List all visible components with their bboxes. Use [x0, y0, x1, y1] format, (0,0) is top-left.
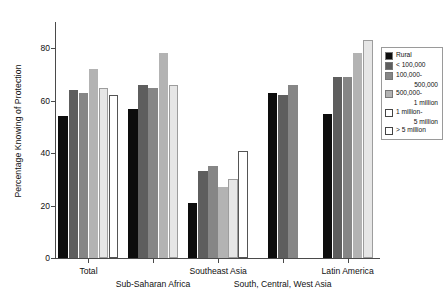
y-tick-label: 60 [0, 97, 57, 105]
legend-swatch [385, 72, 393, 80]
legend-item[interactable]: Rural [385, 51, 440, 60]
legend-label: 500,000- [396, 89, 422, 96]
bar [343, 77, 353, 258]
y-tick-label: 20 [0, 202, 57, 210]
bar [323, 114, 333, 258]
x-tick-mark [283, 258, 284, 263]
bar [99, 88, 109, 258]
legend-item-continuation: 5 million [385, 118, 440, 125]
legend-item[interactable]: < 100,000 [385, 61, 440, 70]
bar-group [186, 22, 251, 258]
bar [58, 116, 68, 258]
bar [128, 109, 138, 258]
bar [208, 166, 218, 258]
x-tick-mark [348, 258, 349, 263]
bar [89, 69, 99, 258]
x-axis-label: Sub-Saharan Africa [116, 279, 191, 289]
x-tick-mark [218, 258, 219, 263]
x-tick-mark [153, 258, 154, 263]
bar [198, 171, 208, 258]
bar [169, 85, 179, 258]
bar [363, 40, 373, 258]
x-tick-mark [88, 258, 89, 263]
legend-item[interactable]: 1 million- [385, 108, 440, 117]
bar-chart: Percentage Knowing of Protection 0204060… [0, 0, 445, 299]
legend-label: > 5 million [396, 126, 426, 133]
legend-swatch [385, 90, 393, 98]
legend-swatch [385, 62, 393, 70]
bar-group [121, 22, 186, 258]
bar [238, 151, 248, 259]
bar-group [315, 22, 380, 258]
legend-label-line2: 1 million [385, 99, 440, 106]
legend-swatch [385, 52, 393, 60]
bar [218, 187, 228, 258]
legend-label: Rural [396, 51, 412, 58]
legend-swatch [385, 127, 393, 135]
legend-item-continuation: 500,000 [385, 81, 440, 88]
bar [228, 179, 238, 258]
bar [288, 85, 298, 258]
bar [109, 95, 119, 258]
y-tick-label: 80 [0, 44, 57, 52]
bar [188, 203, 198, 258]
bar [148, 88, 158, 258]
bar [333, 77, 343, 258]
legend-label-line2: 500,000 [385, 81, 440, 88]
x-axis-label: Total [79, 266, 97, 276]
chart-legend: Rural< 100,000100,000-500,000500,000-1 m… [381, 47, 443, 140]
bar [138, 85, 148, 258]
legend-item[interactable]: 500,000- [385, 89, 440, 98]
x-axis-label: Southeast Asia [190, 266, 247, 276]
bar-group [56, 22, 121, 258]
bar [69, 90, 79, 258]
bar [159, 53, 169, 258]
plot-area [56, 22, 380, 258]
bar [278, 95, 288, 258]
legend-label: < 100,000 [396, 61, 426, 68]
legend-label: 1 million- [396, 108, 422, 115]
x-axis-label: Latin America [322, 266, 374, 276]
legend-label: 100,000- [396, 71, 422, 78]
legend-item-continuation: 1 million [385, 99, 440, 106]
bar [79, 93, 89, 258]
bar [268, 93, 278, 258]
legend-item[interactable]: > 5 million [385, 126, 440, 135]
y-tick-label: 40 [0, 149, 57, 157]
legend-item[interactable]: 100,000- [385, 71, 440, 80]
legend-label-line2: 5 million [385, 118, 440, 125]
x-axis-label: South, Central, West Asia [234, 279, 332, 289]
bar-group [250, 22, 315, 258]
bar [353, 53, 363, 258]
y-tick-label: 0 [0, 254, 57, 262]
legend-swatch [385, 109, 393, 117]
